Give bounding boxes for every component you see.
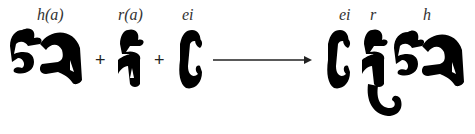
glyph-ro	[118, 29, 144, 87]
glyph-canvas	[0, 0, 475, 134]
arrow	[213, 56, 312, 64]
glyph-e	[179, 30, 202, 88]
output-glyph	[327, 29, 464, 116]
glyph-ha	[10, 28, 82, 84]
